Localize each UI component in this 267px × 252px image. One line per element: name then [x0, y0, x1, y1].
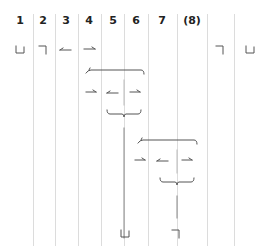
bracket-diagram: 1234567(8) [0, 0, 267, 252]
right-arrow-icon [182, 158, 192, 160]
right-arrow-icon [84, 47, 95, 49]
right-arrow-icon [86, 90, 96, 92]
bottom-brace-icon [160, 178, 194, 185]
corner-icon [39, 46, 46, 54]
top-brace-icon [138, 138, 197, 144]
left-arrow-icon [157, 159, 168, 161]
left-arrow-icon [107, 91, 118, 93]
corner-icon [172, 230, 179, 238]
right-arrow-icon [130, 90, 140, 92]
bottom-brace-icon [107, 110, 141, 117]
open-box-icon [121, 230, 129, 237]
left-arrow-icon [60, 48, 71, 50]
open-box-icon [246, 46, 254, 53]
top-brace-icon [86, 68, 144, 74]
right-arrow-icon [135, 158, 145, 160]
diagram-strokes [0, 0, 267, 252]
open-box-icon [16, 46, 24, 53]
corner-icon [216, 46, 223, 54]
